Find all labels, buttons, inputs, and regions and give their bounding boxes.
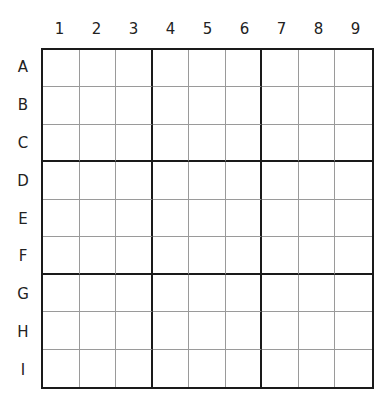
- grid-cell[interactable]: [262, 162, 299, 199]
- grid-cell[interactable]: [80, 312, 117, 349]
- column-label: 8: [300, 18, 337, 40]
- grid-cell[interactable]: [299, 162, 336, 199]
- grid-cell[interactable]: [116, 200, 153, 237]
- grid-cell[interactable]: [299, 87, 336, 124]
- grid-cell[interactable]: [80, 125, 117, 162]
- grid-cell[interactable]: [153, 237, 190, 274]
- grid-cell[interactable]: [226, 312, 263, 349]
- grid-cell[interactable]: [189, 200, 226, 237]
- grid-cell[interactable]: [189, 350, 226, 387]
- grid-cell[interactable]: [335, 237, 372, 274]
- grid-cell[interactable]: [299, 50, 336, 87]
- grid-cell[interactable]: [262, 350, 299, 387]
- sudoku-grid: [41, 48, 374, 389]
- row-label: F: [10, 237, 36, 275]
- grid-cell[interactable]: [335, 125, 372, 162]
- row-label: G: [10, 275, 36, 313]
- grid-cell[interactable]: [226, 125, 263, 162]
- grid-cell[interactable]: [43, 237, 80, 274]
- grid-cell[interactable]: [80, 350, 117, 387]
- column-label: 5: [189, 18, 226, 40]
- grid-cell[interactable]: [43, 350, 80, 387]
- row-label: C: [10, 124, 36, 162]
- grid-cell[interactable]: [116, 237, 153, 274]
- grid-cell[interactable]: [226, 87, 263, 124]
- row-label: B: [10, 86, 36, 124]
- grid-cell[interactable]: [80, 275, 117, 312]
- grid-cell[interactable]: [262, 275, 299, 312]
- grid-cell[interactable]: [262, 312, 299, 349]
- grid-cell[interactable]: [299, 350, 336, 387]
- grid-cell[interactable]: [335, 87, 372, 124]
- grid-cell[interactable]: [226, 237, 263, 274]
- row-labels: ABCDEFGHI: [10, 48, 36, 389]
- grid-cell[interactable]: [153, 312, 190, 349]
- column-label: 6: [226, 18, 263, 40]
- column-label: 7: [263, 18, 300, 40]
- grid-cell[interactable]: [262, 50, 299, 87]
- grid-cell[interactable]: [43, 200, 80, 237]
- grid-cell[interactable]: [80, 50, 117, 87]
- grid-cell[interactable]: [43, 87, 80, 124]
- grid-cell[interactable]: [262, 87, 299, 124]
- grid-cell[interactable]: [189, 87, 226, 124]
- grid-cell[interactable]: [116, 312, 153, 349]
- grid-cell[interactable]: [335, 162, 372, 199]
- grid-cell[interactable]: [116, 275, 153, 312]
- grid-cell[interactable]: [43, 275, 80, 312]
- grid-cell[interactable]: [43, 312, 80, 349]
- grid-cell[interactable]: [189, 275, 226, 312]
- grid-cell[interactable]: [43, 162, 80, 199]
- grid-cell[interactable]: [189, 162, 226, 199]
- grid-cell[interactable]: [153, 162, 190, 199]
- column-label: 2: [78, 18, 115, 40]
- grid-cell[interactable]: [116, 350, 153, 387]
- grid-cell[interactable]: [299, 237, 336, 274]
- grid-cell[interactable]: [153, 87, 190, 124]
- grid-cell[interactable]: [116, 125, 153, 162]
- row-label: I: [10, 351, 36, 389]
- column-label: 9: [337, 18, 374, 40]
- grid-cell[interactable]: [226, 200, 263, 237]
- grid-cell[interactable]: [116, 87, 153, 124]
- row-label: E: [10, 200, 36, 238]
- grid-cell[interactable]: [226, 162, 263, 199]
- grid-cell[interactable]: [335, 275, 372, 312]
- grid-cell[interactable]: [153, 275, 190, 312]
- row-label: H: [10, 313, 36, 351]
- grid-cell[interactable]: [153, 125, 190, 162]
- grid-cell[interactable]: [299, 125, 336, 162]
- column-labels: 123456789: [41, 18, 374, 40]
- grid-cell[interactable]: [226, 350, 263, 387]
- grid-cell[interactable]: [116, 50, 153, 87]
- grid-cell[interactable]: [80, 162, 117, 199]
- grid-cell[interactable]: [153, 50, 190, 87]
- grid-cell[interactable]: [335, 200, 372, 237]
- grid-cell[interactable]: [80, 237, 117, 274]
- grid-cell[interactable]: [299, 312, 336, 349]
- grid-cell[interactable]: [226, 50, 263, 87]
- grid-cell[interactable]: [299, 275, 336, 312]
- grid-cell[interactable]: [262, 200, 299, 237]
- grid-cell[interactable]: [80, 87, 117, 124]
- grid-cell[interactable]: [153, 350, 190, 387]
- grid-cell[interactable]: [116, 162, 153, 199]
- grid-cell[interactable]: [299, 200, 336, 237]
- grid-cell[interactable]: [262, 237, 299, 274]
- column-label: 4: [152, 18, 189, 40]
- grid-cell[interactable]: [262, 125, 299, 162]
- grid-cell[interactable]: [43, 125, 80, 162]
- grid-cell[interactable]: [335, 350, 372, 387]
- grid-cell[interactable]: [335, 312, 372, 349]
- grid-cell[interactable]: [189, 237, 226, 274]
- grid-cell[interactable]: [335, 50, 372, 87]
- column-label: 1: [41, 18, 78, 40]
- row-label: A: [10, 48, 36, 86]
- grid-cell[interactable]: [189, 50, 226, 87]
- grid-cell[interactable]: [80, 200, 117, 237]
- grid-cell[interactable]: [226, 275, 263, 312]
- grid-cell[interactable]: [189, 312, 226, 349]
- grid-cell[interactable]: [153, 200, 190, 237]
- grid-cell[interactable]: [189, 125, 226, 162]
- grid-cell[interactable]: [43, 50, 80, 87]
